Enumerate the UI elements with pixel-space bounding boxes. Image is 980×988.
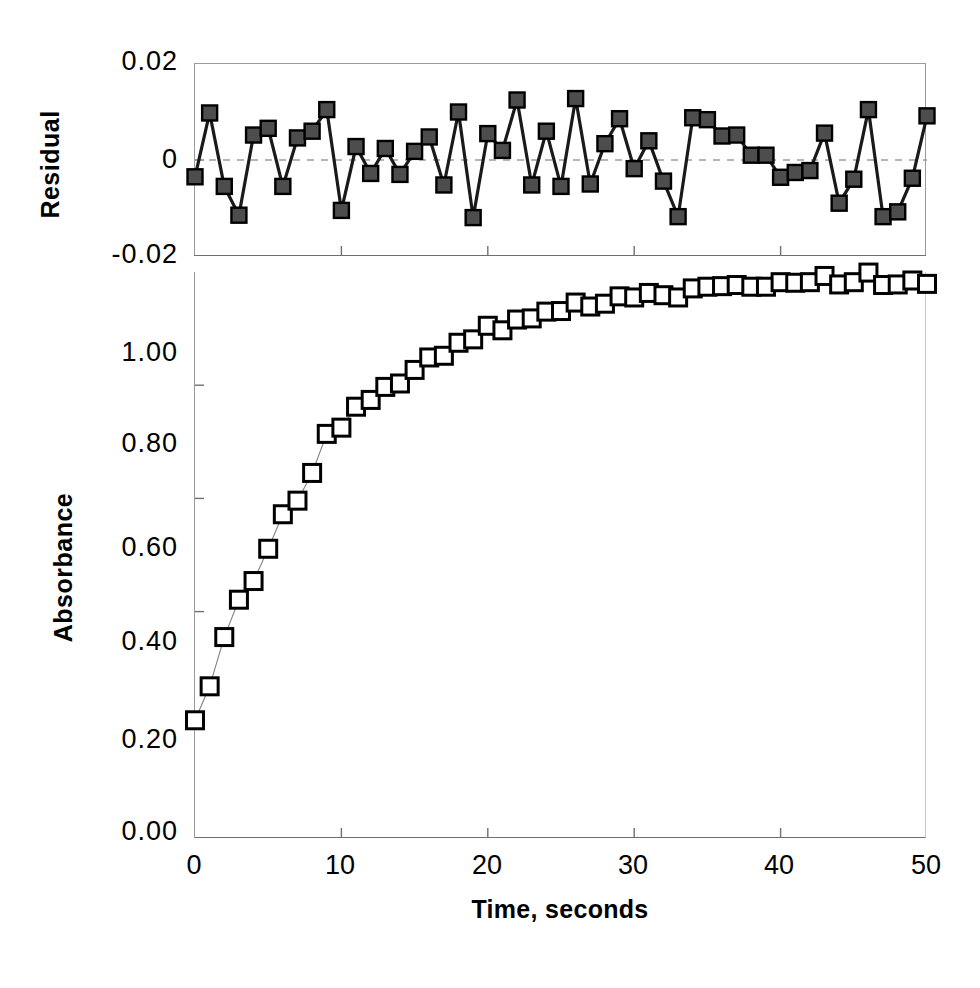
x-tick-label: 50 <box>896 852 956 879</box>
x-axis-title: Time, seconds <box>194 895 926 924</box>
x-tick-label: 20 <box>457 852 517 879</box>
y-tick-label-text: 0.60 <box>121 534 178 561</box>
residual-bottom-axis-line <box>194 255 926 256</box>
x-tick-label: 30 <box>603 852 663 879</box>
x-tick-label: 0 <box>164 852 224 879</box>
y-tick-label-text: -0.02 <box>111 241 178 268</box>
y-tick-label-text: 0.02 <box>121 48 178 75</box>
y-tick-label-text: 0 <box>162 146 178 173</box>
figure-container: Residual Absorbance 0.020-0.021.000.800.… <box>0 0 980 988</box>
residual-axis-title: Residual <box>36 85 65 245</box>
absorbance-axis-title: Absorbance <box>49 443 78 693</box>
y-tick-label-text: 0.80 <box>121 430 178 457</box>
residual-plot-panel <box>194 63 926 255</box>
residual-series <box>195 64 927 256</box>
y-tick-label-text: 1.00 <box>121 339 178 366</box>
x-tick-label: 10 <box>310 852 370 879</box>
y-tick-label-text: 0.20 <box>121 726 178 753</box>
absorbance-series <box>195 272 927 838</box>
absorbance-plot-panel <box>194 272 926 838</box>
y-tick-label-text: 0.40 <box>121 628 178 655</box>
x-tick-label: 40 <box>749 852 809 879</box>
y-tick-label-text: 0.00 <box>121 818 178 845</box>
